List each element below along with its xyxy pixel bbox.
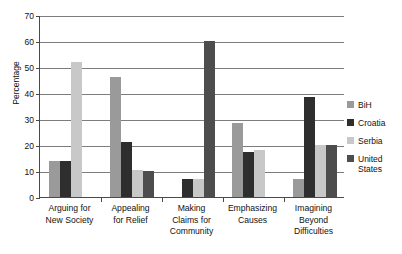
bar — [121, 142, 132, 197]
bar-group — [101, 16, 162, 197]
bar — [60, 161, 71, 197]
bar — [293, 179, 304, 197]
y-axis-tick-label: 50 — [25, 63, 34, 73]
legend-item: Serbia — [347, 136, 400, 146]
y-axis-tick-label: 30 — [25, 115, 34, 125]
x-axis-category-label: EmphasizingCauses — [222, 203, 283, 226]
category-label-line: Making — [161, 203, 222, 215]
legend-item: BiH — [347, 100, 400, 110]
bar — [232, 123, 243, 197]
y-axis-tick-label: 70 — [25, 11, 34, 21]
bar-group — [162, 16, 223, 197]
bar-groups — [40, 16, 344, 197]
bar — [326, 145, 337, 197]
category-label-line: Difficulties — [283, 226, 344, 238]
x-axis-category-labels: Arguing forNew SocietyAppealingfor Relie… — [39, 203, 344, 251]
category-label-line: Arguing for — [39, 203, 100, 215]
bar — [71, 62, 82, 197]
x-axis-tick — [223, 197, 224, 202]
category-label-line: for Relief — [100, 215, 161, 227]
category-label-line: Emphasizing — [222, 203, 283, 215]
legend-label: Serbia — [358, 136, 383, 146]
bar-group — [284, 16, 345, 197]
bar — [315, 145, 326, 197]
y-axis-title: Percentage — [11, 43, 21, 123]
category-label-line: Claims for — [161, 215, 222, 227]
bar — [304, 97, 315, 197]
bar — [254, 150, 265, 197]
bar — [243, 152, 254, 198]
bar — [132, 170, 143, 197]
legend-swatch-icon — [347, 137, 354, 144]
bar-chart: Percentage 010203040506070 Arguing forNe… — [0, 0, 402, 254]
category-label-line: Community — [161, 226, 222, 238]
x-axis-tick — [284, 197, 285, 202]
x-axis-category-label: ImaginingBeyondDifficulties — [283, 203, 344, 238]
y-axis-tick-label: 40 — [25, 89, 34, 99]
y-axis-tick-label: 20 — [25, 141, 34, 151]
x-axis-tick — [162, 197, 163, 202]
x-axis-tick — [101, 197, 102, 202]
plot-area: 010203040506070 — [39, 16, 344, 198]
category-label-line: Beyond — [283, 215, 344, 227]
legend: BiHCroatiaSerbiaUnited States — [347, 100, 400, 174]
legend-label: BiH — [358, 100, 372, 110]
x-axis-category-label: Appealingfor Relief — [100, 203, 161, 226]
legend-item: United States — [347, 154, 400, 174]
legend-swatch-icon — [347, 119, 354, 126]
bar-group — [223, 16, 284, 197]
x-axis-category-label: Arguing forNew Society — [39, 203, 100, 226]
legend-swatch-icon — [347, 155, 354, 162]
bar — [182, 179, 193, 197]
x-axis-category-label: MakingClaims forCommunity — [161, 203, 222, 238]
legend-label: Croatia — [358, 118, 385, 128]
bar-group — [40, 16, 101, 197]
bar — [49, 161, 60, 197]
bar — [193, 179, 204, 197]
category-label-line: Imagining — [283, 203, 344, 215]
y-axis-tick-label: 60 — [25, 37, 34, 47]
legend-item: Croatia — [347, 118, 400, 128]
legend-swatch-icon — [347, 101, 354, 108]
category-label-line: New Society — [39, 215, 100, 227]
y-axis-tick — [36, 198, 40, 199]
bar — [143, 171, 154, 197]
bar — [204, 41, 215, 197]
category-label-line: Causes — [222, 215, 283, 227]
y-axis-tick-label: 10 — [25, 167, 34, 177]
y-axis-tick-label: 0 — [29, 193, 34, 203]
bar — [110, 77, 121, 197]
category-label-line: Appealing — [100, 203, 161, 215]
legend-label: United States — [358, 154, 400, 174]
